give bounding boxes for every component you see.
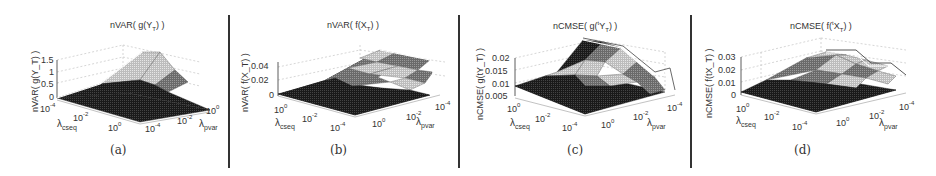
panel-a-ztick: 1.5: [41, 55, 54, 65]
panel-d-ztick: 0: [731, 90, 736, 100]
panel-d-ztick: 0.02: [718, 65, 736, 75]
panel-c-zlabel: nCMSE( g(tY_T) ): [475, 48, 485, 120]
panel-b-ytick: 100: [372, 117, 385, 129]
panel-d-xlabel: λcseq: [736, 115, 756, 128]
panel-a-ytick: 100: [206, 104, 219, 116]
panel-a: nVAR( g(YT) ) nVAR( g(Y_T) ) 1.5 1 0.5 0…: [0, 0, 228, 176]
panel-c-ylabel: λpvar: [647, 117, 666, 130]
panel-a-xlabel: λcseq: [57, 118, 77, 131]
panel-d-ylabel: λpvar: [879, 117, 898, 130]
panel-b-xtick: 100: [274, 103, 287, 115]
panel-d: nCMSE( f(tXT) ) nCMSE( f(tX_T) ) 0.03 0.…: [696, 0, 936, 176]
panel-a-ztick: 0: [49, 92, 54, 102]
panel-b-ztick: 0.02: [251, 75, 269, 85]
panel-c: nCMSE( g(tYT) ) nCMSE( g(tY_T) ) 0.02 0.…: [465, 0, 690, 176]
panel-a-title: nVAR( g(YT) ): [110, 20, 165, 32]
panel-b-xlabel: λcseq: [275, 117, 295, 130]
panel-b-ylabel: λpvar: [416, 116, 435, 129]
panel-c-ytick: 10-4: [667, 101, 682, 113]
panel-b-xtick: 10-2: [302, 112, 317, 124]
panel-a-ytick: 10-4: [145, 122, 160, 134]
panel-a-zlabel: nVAR( g(Y_T) ): [30, 51, 40, 112]
panel-d-zlabel: nCMSE( f(tX_T) ): [704, 48, 714, 118]
panel-d-caption: (d): [794, 143, 811, 157]
panel-a-ztick: 0.5: [41, 79, 54, 89]
panel-divider-cd: [690, 15, 692, 168]
panel-c-xlabel: λcseq: [510, 117, 530, 130]
panel-b-title: nVAR( f(XT) ): [327, 20, 379, 32]
panel-c-xtick: 10-4: [562, 121, 577, 133]
panel-b-zlabel: nVAR( f(X_T) ): [240, 53, 250, 112]
panel-a-caption: (a): [110, 143, 127, 157]
panel-c-ytick: 100: [601, 118, 614, 130]
panel-d-ztick: 0.03: [718, 52, 736, 62]
panel-a-ztick: 1: [49, 67, 54, 77]
panel-b-xtick: 10-4: [330, 121, 345, 133]
panel-b-ztick: 0: [269, 90, 274, 100]
panel-d-title: nCMSE( f(tXT) ): [790, 20, 852, 33]
panel-c-ztick: 0.01: [492, 79, 510, 89]
panel-d-xtick: 10-2: [764, 110, 779, 122]
panel-c-xtick: 100: [507, 102, 520, 114]
panel-c-ztick: 0.015: [485, 66, 508, 76]
panel-b: nVAR( f(XT) ) nVAR( f(X_T) ) 0.04 0.02 0…: [230, 0, 458, 176]
panel-b-caption: (b): [330, 143, 347, 157]
panel-d-ytick: 100: [836, 116, 849, 128]
panel-a-ytick: 10-2: [177, 114, 192, 126]
panel-a-xtick: 10-4: [40, 102, 55, 114]
panel-d-ytick: 10-4: [899, 100, 914, 112]
panel-divider-bc: [458, 15, 460, 168]
panel-c-caption: (c): [567, 143, 583, 157]
panel-d-xtick: 100: [736, 102, 749, 114]
panel-c-ztick: 0.005: [485, 91, 508, 101]
panel-c-title: nCMSE( g(tYT) ): [553, 20, 617, 33]
panel-d-xtick: 10-4: [792, 120, 807, 132]
panel-c-xtick: 10-2: [535, 112, 550, 124]
panel-c-ztick: 0.02: [492, 53, 510, 63]
panel-b-ytick: 10-4: [435, 100, 450, 112]
panel-a-ylabel: λpvar: [199, 118, 218, 131]
panel-a-xtick: 100: [108, 121, 121, 133]
panel-b-ztick: 0.04: [251, 61, 269, 71]
panel-d-ztick: 0.01: [718, 78, 736, 88]
